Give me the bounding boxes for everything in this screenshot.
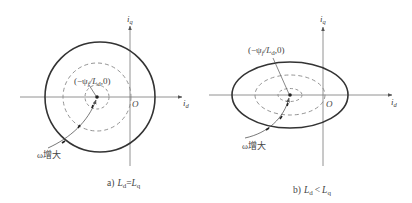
panel-b: (−ψf/Ld,0) O id iq ω增大 b)Ld<Lq <box>209 14 398 197</box>
id-axis-label-a: id <box>183 98 190 109</box>
omega-label-a: ω增大 <box>37 149 61 160</box>
omega-trajectory-b <box>245 98 289 138</box>
panel-a: (−ψf/Ld,0) O id iq ω增大 a)Ld=Lq <box>20 14 190 190</box>
caption-a: a)Ld=Lq <box>107 178 141 190</box>
omega-trajectory-a <box>48 100 96 148</box>
omega-label-b: ω增大 <box>242 140 266 151</box>
iq-axis-label-a: iq <box>127 14 134 25</box>
origin-label-b: O <box>326 99 333 109</box>
center-leader-a <box>89 85 96 96</box>
origin-label-a: O <box>132 99 139 109</box>
id-axis-label-b: id <box>391 97 398 108</box>
iq-axis-label-b: iq <box>320 14 327 25</box>
diagram-canvas: (−ψf/Ld,0) O id iq ω增大 a)Ld=Lq (−ψf/Ld,0… <box>0 0 412 203</box>
caption-b: b)Ld<Lq <box>293 185 331 197</box>
center-leader-b <box>273 58 289 94</box>
center-label-b: (−ψf/Ld,0) <box>248 45 284 57</box>
